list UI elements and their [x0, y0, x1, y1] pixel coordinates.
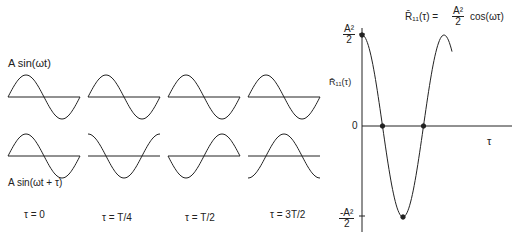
y-tick-top: A² 2: [343, 24, 355, 45]
y-axis-label: R̄₁₁(τ): [329, 78, 351, 87]
column-label-2: τ = T/2: [185, 213, 215, 223]
chart-title-fraction: A² 2: [452, 6, 464, 27]
y-tick-zero: 0: [352, 121, 358, 131]
column-label-1: τ = T/4: [102, 213, 132, 223]
marker-point-0: [360, 33, 364, 37]
y-tick-bottom: -A² 2: [339, 208, 354, 229]
sine-wave-grid: [8, 75, 320, 178]
x-axis-label: τ: [487, 136, 491, 147]
column-label-0: τ = 0: [24, 210, 45, 220]
chart-title-rhs: cos(ωτ): [470, 12, 504, 22]
autocorrelation-plot: [359, 28, 512, 232]
marker-point-3: [401, 215, 405, 219]
bottom-row-label: A sin(ωt + τ): [8, 178, 62, 188]
chart-title-denominator: 2: [452, 17, 464, 27]
marker-point-2: [421, 124, 425, 128]
chart-title-lhs: R̄₁₁(τ) =: [405, 12, 438, 22]
autocorrelation-diagram: [0, 0, 521, 242]
marker-point-1: [380, 124, 384, 128]
column-label-3: τ = 3T/2: [270, 210, 305, 220]
top-row-label: A sin(ωt): [8, 58, 51, 69]
